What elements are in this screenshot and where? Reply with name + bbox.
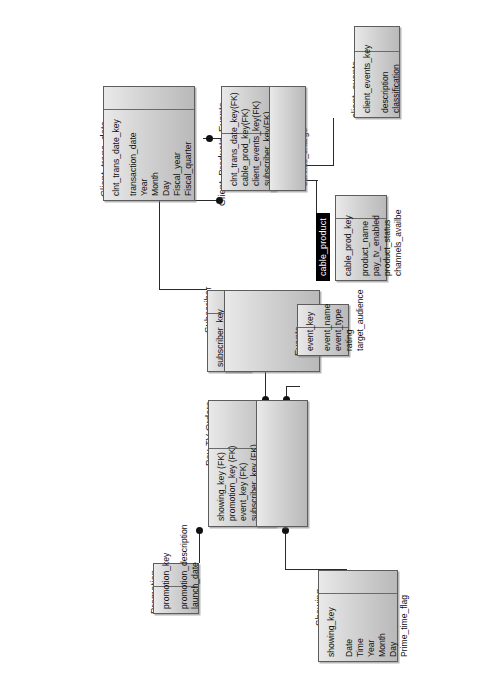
connector-cableproduct-v [316,180,317,213]
entity-column: rating [344,330,354,352]
entity-column: Day [388,642,398,657]
entity-column: Year [366,640,376,657]
entity-key: showing_key (FK) [216,452,226,521]
entity-key: showing_key [326,607,336,657]
pk-separator [104,109,194,110]
connector-promotion-v [199,530,200,563]
entity-column: Fiscal_year [172,152,182,196]
entity-column: Day [161,181,171,196]
relationship-dot [196,527,203,534]
entity-key: client_events_key(FK) [251,101,261,186]
entity-column: Month [150,172,160,196]
entity-column: transaction_date [128,132,138,196]
entity-column: Month [377,633,387,657]
entity-key: event_key [305,312,315,351]
entity-column: classification [391,64,401,113]
entity-column: product_name [360,221,370,276]
connector-events-paytv-h [286,386,300,387]
entity-column: Time [355,638,365,657]
entity-key: clnt_trans_date_key(FK) [229,92,239,186]
entity-title-cable-product: cable_product [316,213,330,281]
entity-column: channels_availbe [393,210,403,276]
connector-subscriber-cpe-h2 [159,289,207,290]
entity-key: event_key (FK) [238,463,248,521]
pk-separator [319,593,397,594]
connector-showing-v [285,530,286,570]
entity-column: pay_tv_enabled [371,215,381,276]
entity-column: Fiscal_quarter [183,142,193,196]
entity-column: product_status [382,220,392,276]
entity-key: cable_prod_key(FK) [240,109,250,186]
entity-column: event_name [322,304,332,351]
connector-clientevents-v [333,118,334,166]
relationship-dot [206,135,213,142]
entity-key: client_events_key [362,45,372,113]
connector-subscriber-cpe-v [159,200,160,290]
entity-column: Prime_time_flag [399,595,409,657]
entity-key: clnt_trans_date_key [111,119,121,196]
er-diagram-canvas: Client_trans_date clnt_trans_date_key tr… [0,0,486,675]
entity-box-cpe-measures [269,86,306,191]
entity-column: target_audience [355,289,365,351]
entity-key: cable_prod_key [343,215,353,276]
entity-column: Date [344,639,354,657]
entity-column: launch_date [190,562,200,609]
entity-column: promotion_description [179,524,189,609]
relationship-dot [282,527,289,534]
entity-key: promotion_key (FK) [227,446,237,521]
entity-column: Year [139,179,149,196]
entity-key: promotion_key [161,553,171,609]
entity-column: event_type [333,309,343,351]
entity-column: description [380,71,390,113]
entity-box-paytv-measures [256,400,308,527]
